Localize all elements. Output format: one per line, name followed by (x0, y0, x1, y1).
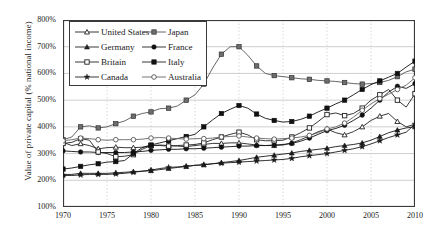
legend-item-canada[interactable]: Canada (74, 69, 149, 84)
y-tick-label: 100% (18, 202, 56, 211)
legend-item-germany[interactable]: Germany (74, 39, 149, 54)
y-tick-label: 300% (18, 149, 56, 158)
legend-item-japan[interactable]: Japan (141, 24, 201, 39)
legend-label: Italy (167, 57, 185, 67)
x-tick-label: 2000 (305, 211, 349, 220)
legend-label: Germany (100, 42, 135, 52)
legend-item-britain[interactable]: Britain (74, 54, 149, 69)
legend-marker-icon (74, 41, 100, 53)
legend-item-united-states[interactable]: United States (74, 24, 149, 39)
x-tick-label: 1990 (217, 211, 261, 220)
legend-marker-icon (74, 26, 100, 38)
x-tick-label: 1995 (261, 211, 305, 220)
legend-marker-icon (141, 41, 167, 53)
legend-item-australia[interactable]: Australia (141, 69, 201, 84)
legend-label: Canada (100, 72, 128, 82)
x-tick-label: 2010 (393, 211, 434, 220)
x-tick-label: 2005 (349, 211, 393, 220)
x-tick-label: 1970 (41, 211, 85, 220)
y-tick-label: 400% (18, 122, 56, 131)
legend-label: Japan (167, 27, 189, 37)
x-tick-label: 1975 (85, 211, 129, 220)
chart-figure: Value of private capital (% national inc… (0, 0, 434, 244)
legend-marker-icon (74, 71, 100, 83)
legend-column-left: United StatesGermanyBritainCanada (74, 24, 149, 84)
legend-label: Australia (167, 72, 201, 82)
legend-label: France (167, 42, 193, 52)
x-tick-label: 1980 (129, 211, 173, 220)
legend-marker-icon (141, 71, 167, 83)
legend-marker-icon (74, 56, 100, 68)
legend-item-italy[interactable]: Italy (141, 54, 201, 69)
legend-marker-icon (141, 56, 167, 68)
x-tick-label: 1985 (173, 211, 217, 220)
y-tick-label: 700% (18, 42, 56, 51)
y-tick-label: 200% (18, 175, 56, 184)
legend-item-france[interactable]: France (141, 39, 201, 54)
legend-column-right: JapanFranceItalyAustralia (141, 24, 201, 84)
y-tick-label: 800% (18, 15, 56, 24)
chart-legend: United StatesGermanyBritainCanada JapanF… (69, 21, 207, 86)
legend-marker-icon (141, 26, 167, 38)
y-tick-label: 600% (18, 68, 56, 77)
y-tick-label: 500% (18, 95, 56, 104)
legend-label: Britain (100, 57, 126, 67)
